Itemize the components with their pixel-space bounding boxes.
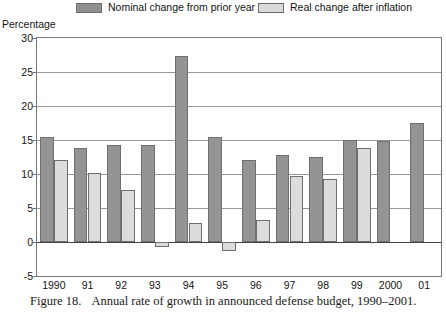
x-axis-tick-label: 99	[351, 279, 363, 291]
figure-caption-text: Annual rate of growth in announced defen…	[91, 294, 416, 308]
bar-real-99	[357, 148, 371, 242]
y-axis-tick-label: 5	[27, 202, 33, 214]
bar-nominal-94	[175, 56, 189, 242]
y-axis-tick-label: 30	[21, 32, 33, 44]
figure-caption: Figure 18.Annual rate of growth in annou…	[30, 294, 442, 309]
legend-swatch-icon	[258, 3, 284, 13]
legend-label-nominal: Nominal change from prior year	[108, 2, 255, 13]
x-axis-tick-label: 96	[250, 279, 262, 291]
x-axis-tick-label: 95	[216, 279, 228, 291]
x-axis-tick-label: 93	[149, 279, 161, 291]
y-axis-tick-mark	[33, 276, 37, 277]
legend-item-real: Real change after inflation	[258, 2, 412, 13]
bar-nominal-97	[276, 155, 290, 242]
y-axis-tick-label: 0	[27, 236, 33, 248]
x-axis-tick-label: 91	[82, 279, 94, 291]
bar-real-95	[222, 242, 236, 251]
chart-legend: Nominal change from prior year Real chan…	[0, 2, 446, 16]
bar-real-98	[323, 179, 337, 242]
bar-real-94	[189, 223, 203, 242]
y-axis-tick-label: -5	[24, 270, 33, 282]
bar-real-93	[155, 242, 169, 247]
x-axis-tick-label: 97	[284, 279, 296, 291]
figure-container: Nominal change from prior year Real chan…	[0, 0, 446, 313]
x-axis-tick-label: 94	[183, 279, 195, 291]
bar-real-91	[88, 173, 102, 242]
bar-real-92	[121, 190, 135, 242]
y-axis-title: Percentage	[2, 18, 56, 30]
bar-series-layer	[37, 38, 441, 276]
x-axis-tick-label: 98	[317, 279, 329, 291]
x-axis-tick-label: 92	[115, 279, 127, 291]
legend-item-nominal: Nominal change from prior year	[76, 2, 255, 13]
bar-nominal-1990	[40, 137, 54, 242]
bar-real-1990	[54, 160, 68, 242]
x-axis-tick-label: 01	[418, 279, 430, 291]
bar-nominal-92	[107, 145, 121, 242]
bar-nominal-01	[410, 123, 424, 242]
x-axis-tick-label: 2000	[379, 279, 402, 291]
y-axis-tick-label: 10	[21, 168, 33, 180]
plot-area: 302520151050-5	[36, 37, 442, 277]
figure-number: Figure 18.	[30, 294, 81, 308]
legend-swatch-icon	[76, 3, 102, 13]
bar-nominal-91	[74, 148, 88, 242]
x-axis-tick-labels: 1990919293949596979899200001	[36, 279, 442, 295]
y-axis-tick-label: 15	[21, 134, 33, 146]
bar-nominal-99	[343, 140, 357, 242]
bar-nominal-93	[141, 145, 155, 242]
y-axis-tick-label: 20	[21, 100, 33, 112]
bar-nominal-96	[242, 160, 256, 242]
y-axis-tick-label: 25	[21, 66, 33, 78]
x-axis-tick-label: 1990	[42, 279, 65, 291]
bar-real-96	[256, 220, 270, 242]
legend-label-real: Real change after inflation	[290, 2, 412, 13]
bar-nominal-2000	[377, 141, 391, 242]
bar-nominal-98	[309, 157, 323, 242]
bar-nominal-95	[208, 137, 222, 242]
bar-real-97	[290, 176, 304, 242]
